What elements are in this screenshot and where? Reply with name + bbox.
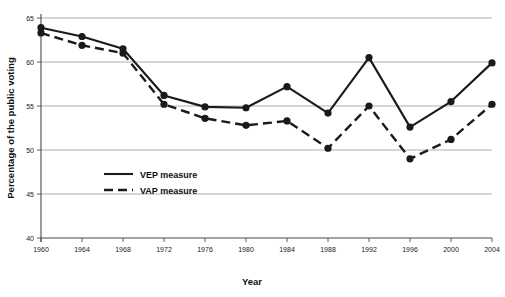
data-point-vep [242,104,249,111]
data-point-vap [283,117,290,124]
x-tick-label: 1984 [279,246,295,253]
series-line-vap [41,33,492,159]
data-point-vap [324,145,331,152]
line-chart: 404550556065 196019641968197219761980198… [0,0,505,297]
data-point-vap [365,102,372,109]
y-axis-tick-marks [37,18,41,238]
x-tick-label: 1964 [74,246,90,253]
series-markers-vep [37,24,495,131]
data-point-vep [365,54,372,61]
data-point-vep [37,24,44,31]
legend-label-vep: VEP measure [140,170,197,180]
x-tick-label: 1992 [361,246,377,253]
y-tick-label: 40 [26,235,34,242]
x-tick-label: 2004 [484,246,500,253]
data-point-vep [201,103,208,110]
legend: VEP measure VAP measure [104,170,197,196]
x-axis-tick-marks [41,238,492,242]
legend-label-vap: VAP measure [140,186,197,196]
x-tick-label: 1972 [156,246,172,253]
y-tick-label: 55 [26,103,34,110]
y-axis-title: Percentage of the public voting [5,57,16,199]
data-point-vap [242,122,249,129]
series-markers-vap [37,29,495,162]
y-tick-label: 50 [26,147,34,154]
x-tick-label: 1996 [402,246,418,253]
data-point-vep [160,92,167,99]
y-tick-label: 45 [26,191,34,198]
data-point-vep [78,33,85,40]
data-point-vep [283,83,290,90]
x-axis-title: Year [242,276,262,287]
y-tick-label: 65 [26,15,34,22]
data-point-vep [447,98,454,105]
x-tick-label: 1988 [320,246,336,253]
data-point-vap [201,115,208,122]
y-axis-tick-labels: 404550556065 [26,15,34,242]
data-point-vep [119,45,126,52]
data-point-vep [324,109,331,116]
data-point-vap [488,101,495,108]
x-axis-tick-labels: 1960196419681972197619801984198819921996… [33,246,500,253]
x-tick-label: 1980 [238,246,254,253]
data-point-vep [406,124,413,131]
data-point-vep [488,59,495,66]
chart-container: 404550556065 196019641968197219761980198… [0,0,505,297]
y-tick-label: 60 [26,59,34,66]
data-point-vap [160,101,167,108]
x-tick-label: 1976 [197,246,213,253]
x-tick-label: 1960 [33,246,49,253]
x-tick-label: 1968 [115,246,131,253]
x-tick-label: 2000 [443,246,459,253]
data-point-vap [78,42,85,49]
data-point-vap [406,155,413,162]
series-line-vep [41,28,492,127]
data-point-vap [447,136,454,143]
